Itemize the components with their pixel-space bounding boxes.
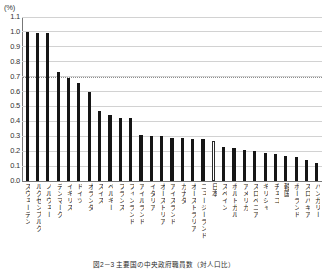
bar <box>284 156 287 181</box>
bar-series <box>22 17 322 181</box>
bar <box>98 111 101 181</box>
category-label: アイスランド <box>168 183 175 225</box>
bar <box>77 83 80 181</box>
plot-area: 0.00.10.20.30.40.50.60.70.80.91.01.1 <box>22 17 322 181</box>
category-label: アメリカ <box>241 183 248 211</box>
bar <box>88 92 91 181</box>
category-label: ギリシャ <box>262 183 269 211</box>
y-axis-tick-label: 0.0 <box>10 177 20 185</box>
category-label: イタリア <box>148 183 155 211</box>
bar-chart-figure: (%) 0.00.10.20.30.40.50.60.70.80.91.01.1… <box>0 0 328 270</box>
bar <box>305 160 308 181</box>
category-label: チェコ <box>272 183 279 204</box>
category-label: カナダ <box>179 183 186 204</box>
category-label: スイス <box>96 183 103 204</box>
y-axis-tick-label: 0.1 <box>10 162 20 170</box>
category-axis-labels: スウェーデンルクセンブルクノルウェーデンマークイギリスドイツオランダスイスベルギ… <box>22 183 322 255</box>
bar <box>181 138 184 181</box>
y-axis-tick-label: 1.1 <box>10 13 20 21</box>
bar <box>36 33 39 181</box>
y-axis-tick-label: 0.4 <box>10 117 20 125</box>
bar <box>170 138 173 181</box>
category-label: スウェーデン <box>24 183 31 225</box>
bar <box>232 148 235 181</box>
y-axis-tick-label: 1.0 <box>10 28 20 36</box>
bar <box>295 157 298 181</box>
category-label: ポーランド <box>293 183 300 218</box>
y-axis-unit-label: (%) <box>4 3 15 12</box>
category-label: ルクセンブルク <box>34 183 41 232</box>
bar <box>67 78 70 181</box>
bar <box>150 136 153 181</box>
bar <box>129 118 132 181</box>
bar <box>191 139 194 181</box>
bar <box>160 136 163 181</box>
category-label: デンマーク <box>55 183 62 218</box>
category-label: スロベニア <box>251 183 258 218</box>
category-label: スロバキア <box>303 183 310 218</box>
y-axis-tick-label: 0.6 <box>10 88 20 96</box>
category-label: ニュージーランド <box>199 183 206 239</box>
bar <box>139 135 142 181</box>
y-axis-tick-label: 0.8 <box>10 58 20 66</box>
bar <box>26 32 29 181</box>
category-label: オーストリア <box>158 183 165 225</box>
bar <box>315 163 318 181</box>
y-axis-tick-label: 0.3 <box>10 132 20 140</box>
category-label: ポルトガル <box>230 183 237 218</box>
category-label: オランダ <box>86 183 93 211</box>
y-axis-tick-label: 0.7 <box>10 73 20 81</box>
category-label: 韓国 <box>282 183 289 197</box>
category-label: イギリス <box>65 183 72 211</box>
category-label: フィンランド <box>127 183 134 225</box>
bar <box>274 154 277 181</box>
bar <box>253 151 256 181</box>
category-label: ノルウェー <box>44 183 51 218</box>
category-label: オーストラリア <box>189 183 196 232</box>
category-label: ドイツ <box>75 183 82 204</box>
category-label: アイルランド <box>137 183 144 225</box>
category-label: フランス <box>117 183 124 211</box>
bar <box>57 72 60 181</box>
y-axis-tick-label: 0.5 <box>10 102 20 110</box>
category-label: 日本 <box>210 183 217 197</box>
bar <box>201 139 204 181</box>
category-label: ベルギー <box>106 183 113 211</box>
y-axis-tick-label: 0.2 <box>10 147 20 155</box>
bar <box>119 118 122 181</box>
bar <box>108 115 111 181</box>
bar <box>222 147 225 181</box>
category-label: ハンガリー <box>313 183 320 218</box>
bar <box>243 150 246 181</box>
bar <box>264 153 267 181</box>
y-axis-tick-label: 0.9 <box>10 43 20 51</box>
bar <box>46 33 49 181</box>
bar <box>212 141 215 181</box>
category-label: スペイン <box>220 183 227 211</box>
figure-caption: 図2－3 主要国の中央政府職員数（対人口比） <box>0 261 328 269</box>
